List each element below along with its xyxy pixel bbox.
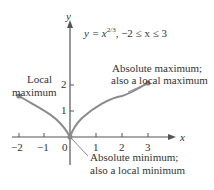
x-tick-label: −2 [11,141,23,153]
abs-min-label-line2: also a local minimum [90,164,185,176]
abs-max-label-line1: Absolute maximum; [112,62,202,74]
y-tick-label: 1 [61,104,67,116]
x-tick-label: 2 [119,141,125,153]
x-tick-label: 1 [93,141,99,153]
x-axis-label: x [180,131,185,143]
x-tick-label: −1 [37,141,49,153]
equation-title: y = x2/3, −2 ≤ x ≤ 3 [84,24,167,39]
local-max-label-line2: maximum [12,86,57,98]
abs-max-label-line2: also a local maximum [111,74,208,86]
abs-min-leader [72,139,88,156]
y-axis-label: y [66,10,71,22]
x-tick-label: 3 [145,141,151,153]
x-tick-label: 0 [62,141,68,153]
abs-min-label-line1: Absolute minimum; [90,151,178,163]
origin-point [67,134,72,139]
x-axis-arrow-icon [168,134,176,140]
local-max-label-line1: Local [22,73,52,85]
y-tick-label: 2 [61,78,67,90]
